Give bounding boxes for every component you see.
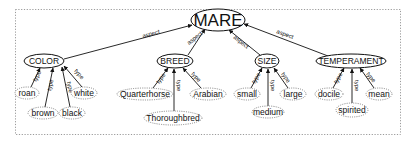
mare-aspect-diagram: aspect aspect aspect aspect type type ty… bbox=[0, 0, 416, 141]
edge-label-type: type bbox=[333, 71, 344, 84]
edge-label-type: type bbox=[46, 78, 54, 91]
edge-label-aspect: aspect bbox=[142, 29, 161, 39]
node-label: docile bbox=[318, 89, 340, 99]
edge-label-type: type bbox=[354, 80, 360, 92]
node-breed: BREED bbox=[157, 54, 193, 68]
edge-label-type: type bbox=[251, 71, 262, 84]
aspect-edge-labels: aspect aspect aspect aspect bbox=[142, 28, 295, 50]
node-label: black bbox=[62, 108, 83, 118]
edge-label-aspect: aspect bbox=[276, 28, 295, 40]
node-label: TEMPERAMENT bbox=[318, 56, 383, 66]
node-label: large bbox=[284, 89, 303, 99]
node-black: black bbox=[59, 107, 85, 119]
edge-label-type: type bbox=[155, 71, 167, 84]
node-label: roan bbox=[18, 88, 35, 98]
node-label: Quarterhorse bbox=[120, 89, 170, 99]
node-large: large bbox=[280, 88, 306, 100]
node-size: SIZE bbox=[255, 54, 279, 68]
node-label: spirited bbox=[338, 105, 366, 115]
edge-temperament-mare bbox=[244, 24, 328, 56]
node-white: white bbox=[71, 87, 97, 99]
node-brown: brown bbox=[28, 107, 58, 119]
edge-label-type: type bbox=[190, 71, 202, 84]
node-roan: roan bbox=[15, 87, 39, 99]
node-label: Arabian bbox=[193, 89, 223, 99]
node-label: SIZE bbox=[258, 56, 277, 66]
node-label: MARE bbox=[193, 11, 242, 30]
node-thoroughbred: Thoroughbred bbox=[144, 111, 202, 125]
node-label: mean bbox=[368, 89, 390, 99]
node-label: small bbox=[237, 89, 257, 99]
node-quarterhorse: Quarterhorse bbox=[117, 88, 173, 100]
edge-label-aspect: aspect bbox=[232, 34, 250, 50]
edge-label-type: type bbox=[32, 69, 43, 82]
edge-label-type: type bbox=[270, 80, 276, 92]
node-mean: mean bbox=[366, 88, 392, 100]
node-arabian: Arabian bbox=[190, 88, 226, 100]
node-label: medium bbox=[253, 107, 283, 117]
node-label: white bbox=[73, 88, 94, 98]
edge-label-type: type bbox=[280, 71, 292, 84]
node-docile: docile bbox=[315, 88, 343, 100]
node-medium: medium bbox=[252, 106, 284, 118]
node-small: small bbox=[234, 88, 260, 100]
node-mare: MARE bbox=[191, 9, 245, 31]
node-label: brown bbox=[31, 108, 54, 118]
edge-label-aspect: aspect bbox=[186, 30, 204, 46]
node-label: COLOR bbox=[29, 56, 59, 66]
node-temperament: TEMPERAMENT bbox=[316, 54, 386, 68]
node-spirited: spirited bbox=[336, 103, 368, 117]
edge-label-type: type bbox=[176, 80, 182, 92]
node-label: BREED bbox=[160, 56, 189, 66]
node-color: COLOR bbox=[24, 54, 64, 68]
node-label: Thoroughbred bbox=[146, 113, 200, 123]
